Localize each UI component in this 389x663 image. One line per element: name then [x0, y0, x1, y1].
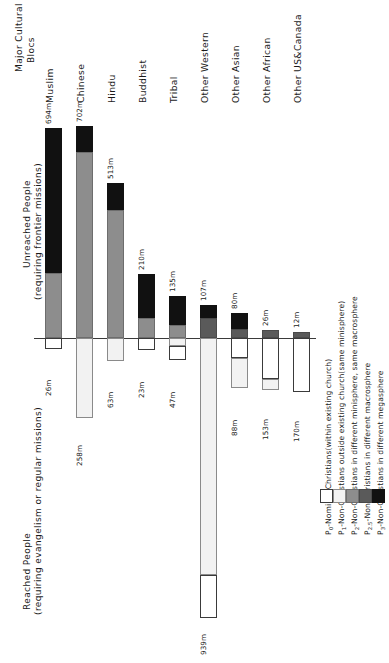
- segment-p3: [76, 126, 93, 152]
- value-label-reached: 47m: [168, 392, 177, 408]
- segment-p0: [138, 338, 155, 350]
- segment-p25: [231, 329, 248, 338]
- segment-p3: [138, 274, 155, 318]
- segment-p1: [169, 338, 186, 346]
- value-label-unreached: 26m: [261, 310, 270, 326]
- value-label-unreached: 210m: [137, 249, 146, 270]
- bar-other-us-canada-reached: [293, 338, 310, 392]
- bloc-label-hindu: Hindu: [106, 74, 117, 103]
- axis-title-reached-line2: (requiring evangelism or regular mission…: [33, 407, 43, 615]
- bar-other-western-reached: [200, 338, 217, 618]
- segment-p0: [45, 338, 62, 349]
- bloc-label-other-us-canada: Other US&Canada: [292, 14, 303, 103]
- value-label-unreached: 80m: [230, 293, 239, 309]
- segment-p2: [169, 325, 186, 338]
- bloc-label-chinese: Chinese: [75, 64, 86, 103]
- bloc-label-other-asian: Other Asian: [230, 45, 241, 103]
- segment-p3: [45, 128, 62, 273]
- segment-p2: [45, 273, 62, 338]
- value-label-reached: 88m: [230, 420, 239, 436]
- bar-muslim-reached: [45, 338, 62, 349]
- bar-other-asian-reached: [231, 338, 248, 388]
- bar-other-african-reached: [262, 338, 279, 390]
- segment-p1: [76, 338, 93, 418]
- segment-p3: [107, 183, 124, 210]
- bar-tribal-reached: [169, 338, 186, 360]
- blocs-header-line2: Blocs: [26, 37, 36, 63]
- bar-muslim-unreached: [45, 128, 62, 338]
- segment-p1: [200, 338, 217, 575]
- segment-p2: [138, 318, 155, 338]
- value-label-unreached: 513m: [106, 158, 115, 179]
- bar-other-asian-unreached: [231, 313, 248, 338]
- bloc-label-other-african: Other African: [261, 37, 272, 103]
- segment-p0: [231, 338, 248, 358]
- bar-buddhist-reached: [138, 338, 155, 350]
- value-label-unreached: 107m: [199, 280, 208, 301]
- value-label-reached: 258m: [75, 445, 84, 466]
- axis-title-unreached-line1: Unreached People: [22, 180, 32, 268]
- segment-p0: [200, 575, 217, 618]
- bar-chinese-unreached: [76, 126, 93, 338]
- bar-hindu-reached: [107, 338, 124, 361]
- segment-p25: [262, 330, 279, 338]
- bar-other-african-unreached: [262, 330, 279, 338]
- chart-canvas: Unreached People (requiring frontier mis…: [0, 0, 389, 663]
- bloc-label-buddhist: Buddhist: [137, 60, 148, 103]
- segment-p1: [107, 338, 124, 361]
- legend-label-p25: P2.5-Non-Christians in different macrosp…: [363, 363, 373, 535]
- segment-p0: [262, 338, 279, 379]
- legend-swatch-p25: [359, 489, 372, 503]
- value-label-reached: 939m: [199, 634, 208, 655]
- segment-p3: [169, 296, 186, 325]
- legend-subscript: 2.5: [367, 521, 373, 530]
- legend-subscript: 1: [341, 527, 347, 531]
- axis-title-reached-line1: Reached People: [22, 533, 32, 610]
- legend-swatch-p3: [372, 489, 385, 503]
- segment-p3: [200, 305, 217, 318]
- segment-p1: [231, 358, 248, 388]
- value-label-reached: 26m: [44, 380, 53, 396]
- value-label-unreached: 702m: [75, 101, 84, 122]
- value-label-unreached: 135m: [168, 271, 177, 292]
- bloc-label-other-western: Other Western: [199, 32, 210, 103]
- legend-label-p0: P0-Nominal Christians(within existing ch…: [324, 359, 334, 535]
- blocs-header-line1: Major Cultural: [14, 3, 24, 72]
- legend-swatch-p1: [333, 489, 346, 503]
- segment-p0: [169, 346, 186, 360]
- legend-key: P: [324, 530, 333, 535]
- segment-p0: [293, 338, 310, 392]
- legend-swatch-p2: [346, 489, 359, 503]
- value-label-reached: 63m: [106, 392, 115, 408]
- legend-key: P: [363, 530, 372, 535]
- legend-label-p3: P3-Non-Christians in different megaspher…: [376, 370, 386, 535]
- bar-tribal-unreached: [169, 296, 186, 338]
- legend-text: -Non-Christians in different megasphere: [376, 370, 385, 526]
- value-label-unreached: 12m: [292, 312, 301, 328]
- legend-key: P: [376, 530, 385, 535]
- bar-hindu-unreached: [107, 183, 124, 338]
- value-label-reached: 23m: [137, 382, 146, 398]
- segment-p2: [76, 152, 93, 338]
- segment-p3: [231, 313, 248, 329]
- legend-key: P: [350, 530, 359, 535]
- legend-subscript: 2: [354, 527, 360, 531]
- legend-key: P: [337, 530, 346, 535]
- value-label-reached: 153m: [261, 419, 270, 440]
- value-label-unreached: 694m: [44, 103, 53, 124]
- bloc-label-tribal: Tribal: [168, 76, 179, 103]
- bar-other-western-unreached: [200, 305, 217, 338]
- bloc-label-muslim: Muslim: [44, 68, 55, 103]
- value-label-reached: 170m: [292, 421, 301, 442]
- bar-chinese-reached: [76, 338, 93, 418]
- segment-p1: [262, 379, 279, 390]
- bar-buddhist-unreached: [138, 274, 155, 338]
- segment-p25: [200, 318, 217, 338]
- legend-subscript: 3: [380, 527, 386, 531]
- legend-subscript: 0: [328, 527, 334, 531]
- legend-swatch-p0: [320, 489, 333, 503]
- axis-title-unreached-line2: (requiring frontier missions): [33, 163, 43, 300]
- segment-p2: [107, 210, 124, 338]
